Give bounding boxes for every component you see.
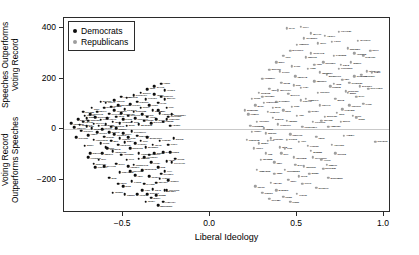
point-label: XKYVL (289, 27, 295, 29)
point-label: OYFA (167, 170, 172, 172)
point-label: VSXAUNZ (324, 119, 333, 121)
data-point (247, 113, 249, 115)
point-label: BPIZMBM (313, 151, 322, 153)
data-point (308, 110, 310, 112)
point-label: SPNGML (106, 136, 114, 138)
x-tick (296, 212, 297, 216)
point-label: WPNDA (148, 200, 155, 202)
data-point (148, 104, 151, 107)
data-point (291, 65, 293, 67)
point-label: IOVQAMNS (344, 109, 354, 111)
data-point (265, 152, 267, 154)
data-point (280, 81, 282, 83)
data-point (151, 109, 154, 112)
point-label: ZTSZBB (158, 194, 165, 196)
data-point (94, 166, 97, 169)
data-point (144, 98, 147, 101)
data-point (285, 119, 287, 121)
data-point (151, 188, 154, 191)
y-axis-label-upper: Speeches Outperforms Voting Record (0, 6, 20, 124)
data-point (70, 122, 73, 125)
data-point (127, 165, 130, 168)
point-label: CSZGNTOM (249, 139, 260, 141)
point-label: SPWEPG (171, 180, 179, 182)
data-point (169, 124, 172, 127)
point-label: XFOWPDQC (351, 82, 362, 84)
data-point (118, 122, 121, 125)
point-label: JIURMSK (115, 191, 123, 193)
data-point (78, 124, 81, 127)
data-point (282, 109, 284, 111)
point-label: NQZZSN (127, 194, 135, 196)
point-label: POYXPUOK (315, 121, 326, 123)
data-point (315, 136, 317, 138)
point-label: EVSZ (131, 137, 136, 139)
point-label: VNRI (299, 114, 303, 116)
data-point (108, 131, 111, 134)
point-label: XJAR (129, 158, 134, 160)
point-label: IXNZ (268, 153, 272, 155)
point-label: JYGATYAEJ (174, 162, 185, 164)
data-point (332, 55, 334, 57)
data-point (150, 197, 153, 200)
data-point (350, 61, 352, 63)
point-label: VJXZWZGH (264, 77, 274, 79)
data-point (144, 146, 147, 149)
data-point (313, 64, 315, 66)
data-point (315, 186, 317, 188)
data-point (346, 47, 348, 49)
data-point (124, 193, 127, 196)
point-label: TOPORIWTV (364, 75, 375, 77)
data-point (125, 124, 128, 127)
data-point (111, 121, 114, 124)
point-label: NDGE (285, 110, 290, 112)
point-label: ZLCKO (118, 163, 124, 165)
point-label: RIABAPDU (365, 56, 375, 58)
point-label: JQNIZBNEV (322, 72, 333, 74)
data-point (280, 152, 282, 154)
data-point (291, 105, 293, 107)
point-label: NRXSTMQPV (174, 114, 186, 116)
point-label: QAMCIBGII (278, 189, 288, 191)
data-point (263, 102, 265, 104)
data-point (153, 93, 156, 96)
data-point (273, 173, 275, 175)
data-point (153, 85, 156, 88)
point-label: CDJB (160, 166, 165, 168)
data-point (82, 121, 85, 124)
data-point (312, 156, 314, 158)
point-label: RBSXEDLL (317, 80, 327, 82)
data-point (127, 136, 130, 139)
point-label: BKRWANJUG (150, 137, 162, 139)
data-point (301, 183, 303, 185)
data-point (353, 52, 355, 54)
point-label: ERFXFZUBI (325, 167, 335, 169)
data-point (146, 193, 149, 196)
data-point (256, 169, 258, 171)
data-point (92, 162, 95, 165)
point-label: AOVFXI (324, 159, 331, 161)
legend-item-republicans: Republicans (73, 36, 128, 47)
data-point (146, 136, 149, 139)
data-point (256, 121, 258, 123)
point-label: LPSTWQMM (252, 125, 263, 127)
data-point (89, 113, 92, 116)
data-point (155, 118, 158, 121)
y-tick (59, 179, 63, 180)
data-point (305, 56, 307, 58)
data-point (99, 100, 102, 103)
point-label: HWGZLNJK (120, 144, 131, 146)
point-label: NVPQVUQ (261, 92, 270, 94)
data-point (268, 198, 270, 200)
data-point (299, 26, 301, 28)
point-label: KLDVRGG (320, 91, 329, 93)
data-point (134, 142, 137, 145)
data-point (261, 95, 263, 97)
data-point (261, 78, 263, 80)
point-label: TMUYWIH (158, 181, 167, 183)
data-point (313, 80, 315, 82)
data-point (139, 140, 142, 143)
data-point (158, 112, 161, 115)
data-point (73, 126, 76, 129)
point-label: ZSJMXKIMN (247, 109, 258, 111)
